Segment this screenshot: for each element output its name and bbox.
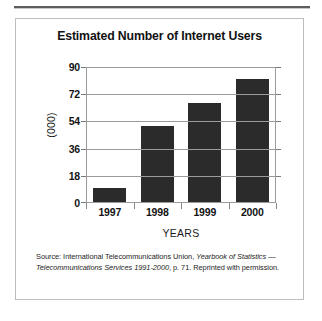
y-axis-tick-label: 0: [74, 197, 80, 209]
y-axis-tick-mark: [81, 149, 86, 150]
x-axis-title: YEARS: [86, 227, 276, 239]
x-axis-tick-label: 1997: [86, 206, 134, 218]
plot-wrapper: (000) 01836547290 1997199819992000 YEARS: [16, 67, 305, 219]
bar-1998: [141, 126, 174, 203]
y-axis-tick-label: 90: [69, 61, 80, 73]
gridline: [86, 67, 276, 68]
source-citation: Source: International Telecommunications…: [36, 251, 288, 274]
source-prefix: Source: International Telecommunications…: [36, 252, 196, 261]
x-axis-tick-label: 2000: [229, 206, 277, 218]
page-top-rule: [14, 6, 310, 8]
gridline: [86, 121, 276, 122]
x-axis-tick-label: 1999: [181, 206, 229, 218]
y-axis-tick-mark: [81, 94, 86, 95]
y-axis-tick-labels: 01836547290: [54, 67, 80, 203]
bar-slot: [134, 67, 182, 203]
bar-1999: [188, 103, 221, 203]
y-axis-tick-label: 18: [69, 170, 80, 182]
x-axis-tick-mark: [276, 203, 277, 209]
y-axis-tick-mark-right: [276, 94, 281, 95]
y-axis-tick-mark: [81, 67, 86, 68]
y-axis-tick-mark-right: [276, 67, 281, 68]
bar-slot: [86, 67, 134, 203]
bar-1997: [93, 188, 126, 203]
y-axis-tick-mark: [81, 176, 86, 177]
bar-slot: [229, 67, 277, 203]
y-axis-tick-label: 54: [69, 115, 80, 127]
y-axis-tick-label: 36: [69, 143, 80, 155]
x-axis-tick-labels: 1997199819992000: [86, 206, 276, 218]
plot-area: [86, 67, 276, 203]
gridline: [86, 149, 276, 150]
bar-2000: [236, 79, 269, 203]
y-axis-tick-mark: [81, 121, 86, 122]
y-axis-tick-label: 72: [69, 88, 80, 100]
chart-title: Estimated Number of Internet Users: [16, 29, 303, 43]
gridline: [86, 176, 276, 177]
y-axis-tick-mark-right: [276, 121, 281, 122]
bar-slot: [181, 67, 229, 203]
source-suffix: , p. 71. Reprinted with permission.: [169, 263, 279, 272]
x-axis-tick-label: 1998: [134, 206, 182, 218]
y-axis-tick-mark-right: [276, 176, 281, 177]
bar-series: [86, 67, 276, 203]
gridline: [86, 94, 276, 95]
y-axis-tick-mark-right: [276, 149, 281, 150]
figure-container: Estimated Number of Internet Users (000)…: [15, 18, 304, 300]
